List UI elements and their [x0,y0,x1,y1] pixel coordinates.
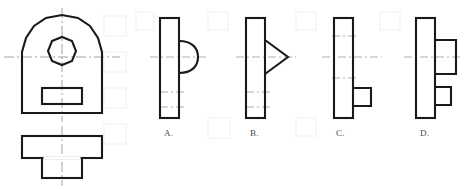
top-view [22,126,102,186]
option-b-label: B. [250,128,259,138]
option-d-drawing[interactable] [404,18,462,118]
option-b-body [246,18,265,118]
technical-drawing-canvas: .obj{fill:none;stroke:#1a1a1a;stroke-wid… [0,0,471,189]
option-a-label: A. [164,128,173,138]
option-d-label: D. [420,128,429,138]
option-c-rect-protrusion [353,88,371,106]
option-d-lower-protrusion [435,87,451,105]
option-d-body [416,18,435,118]
option-c-body [334,18,353,118]
front-view [4,8,120,122]
option-c-label: C. [336,128,345,138]
option-a-drawing[interactable] [150,18,206,118]
option-c-drawing[interactable] [322,18,382,118]
drawing-sheet: .obj{fill:none;stroke:#1a1a1a;stroke-wid… [0,0,471,189]
option-b-drawing[interactable] [236,18,296,118]
option-a-body [160,18,179,118]
